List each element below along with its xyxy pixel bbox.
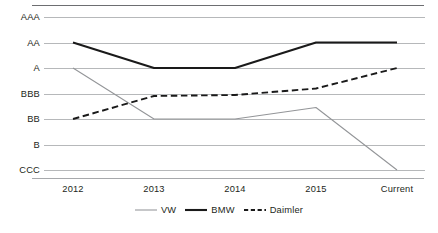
legend-label-bmw: BMW: [211, 205, 234, 215]
series-line-vw: [73, 68, 397, 170]
gridline-ccc: [44, 170, 425, 171]
x-axis-label-2014: 2014: [224, 184, 245, 194]
y-axis-label-aaa: AAA: [0, 12, 40, 22]
x-axis-line: [32, 178, 424, 179]
y-axis-label-b: B: [0, 140, 40, 150]
series-line-daimler: [73, 68, 397, 119]
legend-item-bmw: BMW: [185, 205, 234, 215]
legend-swatch-bmw-icon: [185, 206, 207, 214]
x-axis-label-2013: 2013: [143, 184, 164, 194]
chart-legend: VW BMW Daimler: [0, 205, 438, 215]
x-axis-label-2012: 2012: [62, 184, 83, 194]
x-axis-labels: 2012 2013 2014 2015 Current: [44, 184, 425, 198]
y-axis-label-bbb: BBB: [0, 89, 40, 99]
legend-label-vw: VW: [161, 205, 176, 215]
credit-rating-line-chart: AAA AA A BBB BB B CCC 2012 2013 2014 201…: [0, 0, 438, 233]
legend-item-daimler: Daimler: [244, 205, 303, 215]
series-layer: [44, 17, 425, 170]
legend-label-daimler: Daimler: [270, 205, 303, 215]
x-axis-label-current: Current: [381, 184, 413, 194]
y-axis-labels: AAA AA A BBB BB B CCC: [0, 17, 40, 170]
legend-swatch-vw-icon: [135, 206, 157, 214]
y-axis-label-aa: AA: [0, 38, 40, 48]
y-axis-label-ccc: CCC: [0, 165, 40, 175]
series-line-bmw: [73, 43, 397, 69]
top-rule-divider: [32, 5, 424, 6]
legend-swatch-daimler-icon: [244, 206, 266, 214]
legend-item-vw: VW: [135, 205, 176, 215]
y-axis-label-a: A: [0, 63, 40, 73]
y-axis-label-bb: BB: [0, 114, 40, 124]
x-axis-label-2015: 2015: [305, 184, 326, 194]
